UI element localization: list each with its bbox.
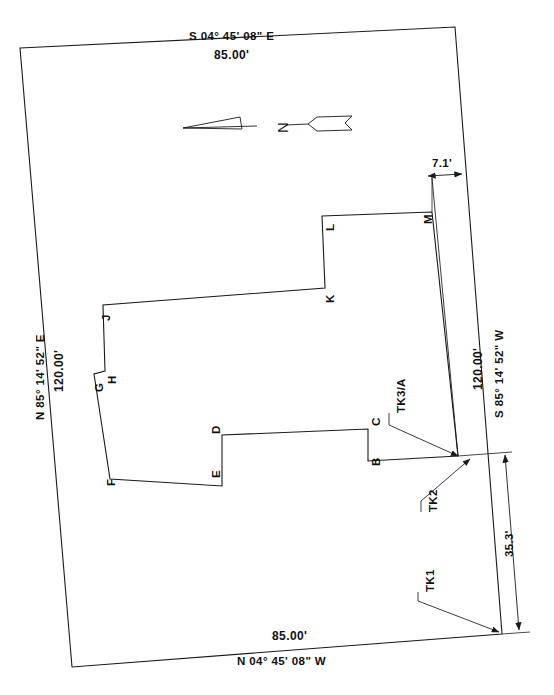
- dim-7-1-value: 7.1': [432, 158, 452, 170]
- dim-35-3-extension-top: [458, 452, 512, 456]
- vertex-label-H: H: [107, 376, 119, 384]
- leader-tk1: [418, 592, 499, 632]
- vertex-label-D: D: [211, 426, 223, 434]
- north-arrow-label: N: [275, 122, 290, 133]
- dim-7-1-line: [428, 174, 462, 176]
- west-boundary-distance: 120.00': [53, 350, 65, 392]
- vertex-label-M: M: [423, 214, 435, 224]
- vertex-label-J: J: [101, 315, 113, 321]
- building-footprint: [94, 212, 458, 486]
- dim-35-3-value: 35.3': [504, 530, 516, 557]
- dim-35-3-extension-bottom: [502, 632, 530, 634]
- west-boundary-bearing: N 85° 14' 52" E: [35, 334, 47, 420]
- east-dim-120-value: 120.00': [472, 348, 484, 390]
- north-arrow-icon: [183, 116, 352, 131]
- east-boundary-bearing: S 85° 14' 52" W: [494, 330, 506, 418]
- callout-label-tk2: TK2: [428, 489, 440, 512]
- dim-120-line: [432, 178, 458, 456]
- callout-label-tk1: TK1: [425, 569, 437, 592]
- vertex-label-G: G: [94, 383, 106, 392]
- callout-label-tk3a: TK3/A: [396, 378, 408, 413]
- vertex-label-B: B: [371, 458, 383, 466]
- vertex-label-E: E: [211, 470, 223, 478]
- north-boundary-distance: 85.00': [214, 49, 249, 61]
- south-boundary-distance: 85.00': [272, 630, 307, 642]
- vertex-label-K: K: [325, 295, 337, 303]
- leader-tk3a: [389, 413, 458, 456]
- south-boundary-bearing: N 04° 45' 08" W: [237, 656, 326, 668]
- north-boundary-bearing: S 04° 45' 08" E: [189, 31, 274, 43]
- vertex-label-F: F: [106, 479, 118, 486]
- vertex-label-L: L: [325, 224, 337, 231]
- vertex-label-C: C: [371, 418, 383, 426]
